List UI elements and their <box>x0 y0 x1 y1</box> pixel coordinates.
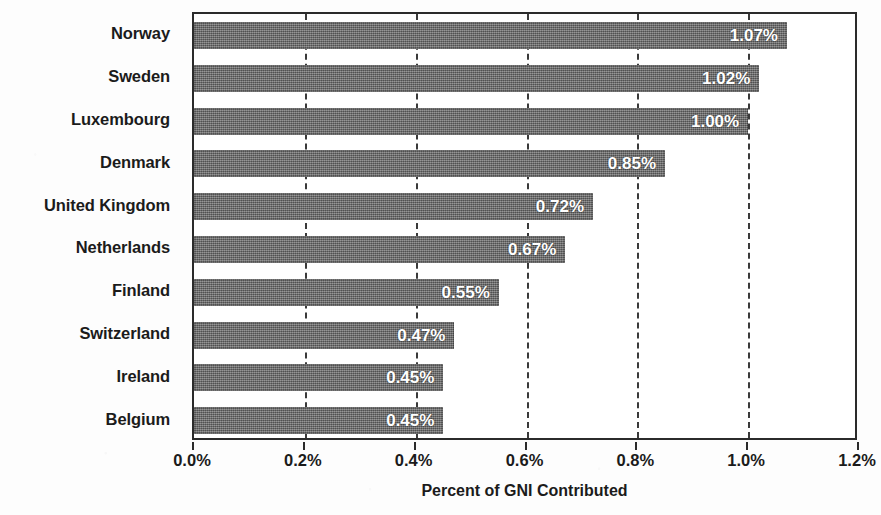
x-tick-mark <box>857 442 859 450</box>
x-tick-mark <box>746 442 748 450</box>
category-label: Belgium <box>106 411 170 428</box>
bar: 1.07% <box>194 22 787 49</box>
category-label: United Kingdom <box>44 197 170 214</box>
category-label: Denmark <box>100 154 170 171</box>
bar-value-label: 0.45% <box>386 369 434 386</box>
category-label: Luxembourg <box>71 111 170 128</box>
x-tick-mark <box>635 442 637 450</box>
plot-area: 1.07%1.02%1.00%0.85%0.72%0.67%0.55%0.47%… <box>192 12 857 440</box>
x-tick-label: 0.8% <box>617 452 655 469</box>
bar: 0.67% <box>194 236 565 263</box>
category-label: Finland <box>112 282 170 299</box>
bar: 0.45% <box>194 364 443 391</box>
x-axis-title: Percent of GNI Contributed <box>192 483 857 499</box>
bar: 0.85% <box>194 150 665 177</box>
category-label: Norway <box>111 25 170 42</box>
bar-value-label: 0.55% <box>442 284 490 301</box>
bar: 0.45% <box>194 407 443 434</box>
category-label: Switzerland <box>79 325 170 342</box>
bar-value-label: 1.02% <box>702 70 750 87</box>
x-tick-label: 1.2% <box>838 452 876 469</box>
bar: 0.55% <box>194 279 499 306</box>
x-tick-label: 1.0% <box>727 452 765 469</box>
x-tick-label: 0.4% <box>395 452 433 469</box>
x-tick-label: 0.2% <box>284 452 322 469</box>
bar-value-label: 0.47% <box>397 327 445 344</box>
category-label: Sweden <box>108 68 170 85</box>
bar-chart-figure: NorwaySwedenLuxembourgDenmarkUnited King… <box>0 0 881 515</box>
x-tick-mark <box>414 442 416 450</box>
bar: 1.02% <box>194 65 759 92</box>
category-label: Netherlands <box>76 239 170 256</box>
bar-value-label: 0.45% <box>386 412 434 429</box>
x-tick-mark <box>192 442 194 450</box>
bar-value-label: 0.85% <box>608 155 656 172</box>
x-tick-label: 0.6% <box>506 452 544 469</box>
bar-value-label: 1.07% <box>730 27 778 44</box>
category-axis-labels: NorwaySwedenLuxembourgDenmarkUnited King… <box>0 12 181 440</box>
bar: 0.72% <box>194 193 593 220</box>
x-tick-mark <box>303 442 305 450</box>
bar: 0.47% <box>194 322 454 349</box>
category-label: Ireland <box>117 368 170 385</box>
x-axis-tick-labels: 0.0%0.2%0.4%0.6%0.8%1.0%1.2% <box>0 452 881 478</box>
bar-value-label: 0.72% <box>536 198 584 215</box>
bar-value-label: 0.67% <box>508 241 556 258</box>
x-tick-label: 0.0% <box>173 452 211 469</box>
x-tick-mark <box>525 442 527 450</box>
bar: 1.00% <box>194 108 748 135</box>
bar-value-label: 1.00% <box>691 113 739 130</box>
